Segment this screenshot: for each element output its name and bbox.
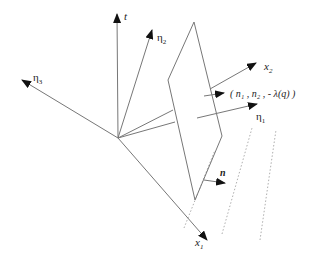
axes — [22, 14, 207, 240]
tangent-plane — [168, 22, 222, 200]
origin-to-plane-rays — [118, 110, 175, 138]
x2-label: x2 — [263, 60, 273, 75]
normal-vector-label: ( n₁ , n₂ , - λ(q) ) — [230, 88, 296, 100]
x2-vector — [210, 63, 256, 89]
normal-vector — [204, 93, 224, 96]
x1-label: x1 — [194, 236, 203, 251]
x1-axis — [118, 138, 207, 240]
eta2-label: η2 — [157, 31, 167, 46]
plane-vectors — [197, 63, 257, 183]
dotted-lines — [184, 128, 276, 240]
eta2-axis — [118, 30, 152, 138]
t-label: t — [124, 10, 128, 22]
n-vector — [204, 180, 225, 183]
diagram-canvas: t η2 η3 x1 x2 ( n₁ , n₂ , - λ(q) ) η1 n — [0, 0, 310, 263]
n-label: n — [220, 167, 226, 178]
eta3-label: η3 — [33, 71, 43, 86]
eta3-axis — [22, 80, 118, 138]
eta1-vector — [197, 104, 257, 118]
t-axis — [117, 14, 118, 138]
eta1-label: η1 — [256, 110, 266, 125]
